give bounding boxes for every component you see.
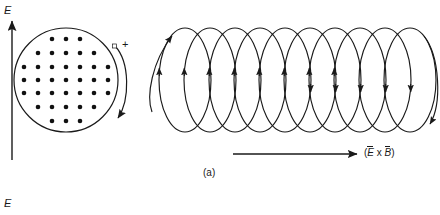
magnetic-field-circulation-arrow — [113, 44, 127, 118]
electric-field-label-top: E — [4, 5, 11, 16]
cross-product-symbol: x — [374, 147, 385, 158]
electromagnetic-wave-figure: E + (E x B) (a) E — [0, 0, 440, 215]
paren-close: ) — [391, 147, 394, 158]
magnetic-field-loop-helix — [150, 28, 438, 132]
propagation-vector-label: (E x B) — [364, 148, 395, 158]
figure-caption: (a) — [203, 168, 215, 178]
b-vector-symbol: B — [385, 148, 392, 158]
electric-field-label-bottom: E — [4, 198, 11, 209]
polarity-plus-label: + — [122, 39, 128, 50]
electric-field-out-of-page-disk — [14, 28, 118, 132]
field-dot-grid — [22, 37, 111, 124]
e-vector-symbol: E — [367, 148, 374, 158]
figure-canvas — [0, 0, 440, 215]
